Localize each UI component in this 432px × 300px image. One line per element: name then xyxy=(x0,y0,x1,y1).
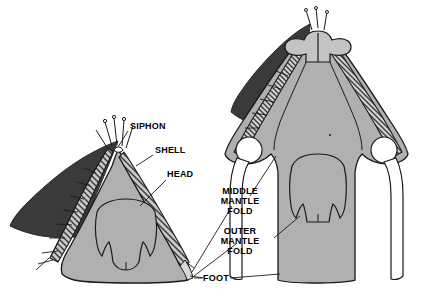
right-center-dot xyxy=(329,134,331,136)
leader-shell xyxy=(136,155,153,166)
left-specimen xyxy=(10,115,194,283)
label-siphon: SIPHON xyxy=(130,121,166,131)
label-foot: FOOT xyxy=(196,273,236,283)
label-head: HEAD xyxy=(167,169,193,179)
right-head xyxy=(290,154,347,222)
label-shell: SHELL xyxy=(155,145,186,155)
diagram-canvas: SIPHON SHELL HEAD MIDDLE MANTLE FOLD OUT… xyxy=(0,0,432,300)
left-apex-notch xyxy=(114,147,123,152)
label-middle-mantle-fold: MIDDLE MANTLE FOLD xyxy=(208,186,272,216)
label-outer-mantle-fold: OUTER MANTLE FOLD xyxy=(208,226,272,256)
